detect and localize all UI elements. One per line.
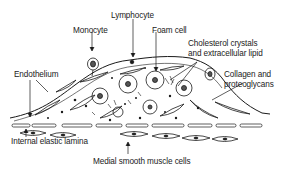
cholesterol-crystals: [92, 76, 174, 115]
label-medial-smooth-muscle-cells: Medial smooth muscle cells: [93, 157, 191, 167]
label-lymphocyte: Lymphocyte: [111, 11, 154, 21]
label-monocyte: Monocyte: [73, 26, 108, 36]
internal-elastic-lamina: [12, 124, 262, 127]
plaque-diagram: Monocyte Lymphocyte Foam cell Cholestero…: [0, 0, 282, 171]
label-cholesterol-line2: and extracellular lipid: [188, 49, 263, 59]
label-cholesterol-line1: Cholesterol crystals: [188, 39, 257, 49]
label-endothelium: Endothelium: [14, 70, 58, 80]
label-internal-elastic-lamina: Internal elastic lamina: [11, 137, 88, 147]
label-foam-cell: Foam cell: [152, 26, 187, 36]
label-collagen-line2: proteoglycans: [224, 80, 274, 90]
label-collagen-line1: Collagen and: [224, 70, 271, 80]
